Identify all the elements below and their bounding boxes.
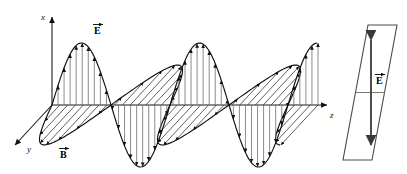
- e-field-label: E: [94, 25, 101, 36]
- axis-y-label: y: [26, 144, 31, 154]
- em-wave-figure: x y z E B E: [0, 0, 407, 174]
- b-field-label: B: [60, 149, 67, 160]
- e-plane-label: E: [376, 75, 383, 86]
- axis-z-label: z: [329, 110, 334, 120]
- figure-canvas: x y z E B E: [0, 0, 407, 174]
- axis-x-label: x: [40, 12, 45, 22]
